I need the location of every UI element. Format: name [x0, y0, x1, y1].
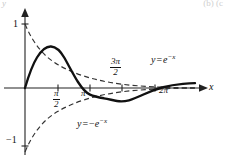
envelope-upper-label: y=e−x	[151, 54, 175, 65]
corner-label-topright: (b) (c	[203, 0, 223, 8]
fraction-3pi-over-2: 3π 2	[110, 57, 121, 77]
envelope-lower-exponent: −x	[99, 117, 107, 125]
x-tick-label-2pi: 2π	[159, 86, 168, 95]
x-tick-label-pi: π	[81, 89, 86, 98]
fraction-denominator: 2	[110, 68, 121, 77]
graph-canvas	[0, 0, 225, 155]
x-axis-label: x	[209, 82, 213, 92]
corner-label-topleft: y	[2, 0, 6, 8]
figure-damped-sine-graph: y (b) (c 1 −1 x π 2 π 3π 2 2π y=e−x y=−e…	[0, 0, 225, 155]
envelope-lower-equals: =	[81, 118, 89, 129]
fraction-denominator: 2	[53, 100, 60, 109]
curve-envelope-lower	[25, 88, 196, 152]
fraction-numerator: 3π	[110, 57, 121, 66]
envelope-upper-exponent: −x	[168, 53, 176, 61]
fraction-pi-over-2: π 2	[53, 89, 60, 109]
x-tick-label-pi-over-2: π 2	[53, 89, 60, 109]
envelope-upper-equals: =	[155, 54, 163, 65]
y-tick-label-1: 1	[13, 19, 18, 29]
x-tick-label-3pi-over-2: 3π 2	[110, 57, 121, 77]
envelope-lower-label: y=−e−x	[77, 118, 107, 129]
fraction-numerator: π	[53, 89, 60, 98]
y-tick-label-negative-1: −1	[6, 135, 17, 145]
